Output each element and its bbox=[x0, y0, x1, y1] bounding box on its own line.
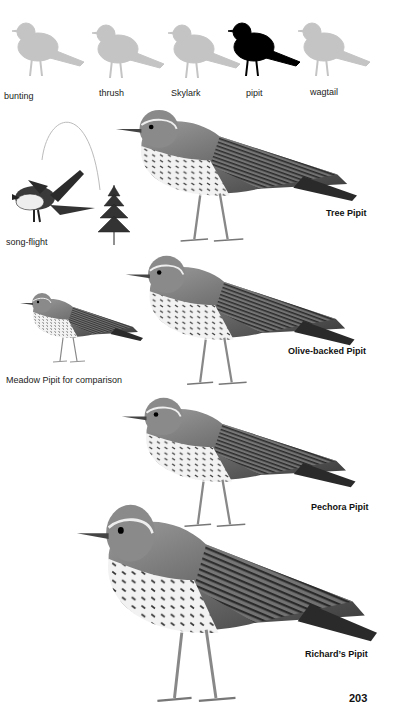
olive-backed-pipit-illustration bbox=[122, 254, 362, 389]
song-flight-bird-icon bbox=[12, 170, 95, 222]
pipit-silhouette-icon bbox=[228, 23, 300, 76]
skylark-silhouette-icon bbox=[168, 25, 240, 78]
richards-pipit-caption: Richard’s Pipit bbox=[305, 649, 368, 659]
silhouette-label-skylark: Skylark bbox=[171, 88, 201, 98]
bunting-silhouette-icon bbox=[12, 23, 84, 76]
richards-pipit-illustration bbox=[72, 502, 392, 712]
tree-pipit-illustration bbox=[112, 108, 372, 248]
silhouette-label-pipit: pipit bbox=[246, 88, 263, 98]
thrush-silhouette-icon bbox=[92, 25, 164, 78]
meadow-pipit-note: Meadow Pipit for comparison bbox=[6, 375, 122, 385]
wagtail-silhouette-icon bbox=[298, 23, 370, 76]
silhouette-label-wagtail: wagtail bbox=[310, 87, 338, 97]
silhouette-label-thrush: thrush bbox=[99, 88, 124, 98]
tree-pipit-caption: Tree Pipit bbox=[326, 208, 367, 218]
page-number: 203 bbox=[349, 692, 367, 704]
silhouette-label-bunting: bunting bbox=[4, 91, 34, 101]
olive-backed-pipit-caption: Olive-backed Pipit bbox=[288, 346, 366, 356]
song-flight-label: song-flight bbox=[6, 237, 48, 247]
